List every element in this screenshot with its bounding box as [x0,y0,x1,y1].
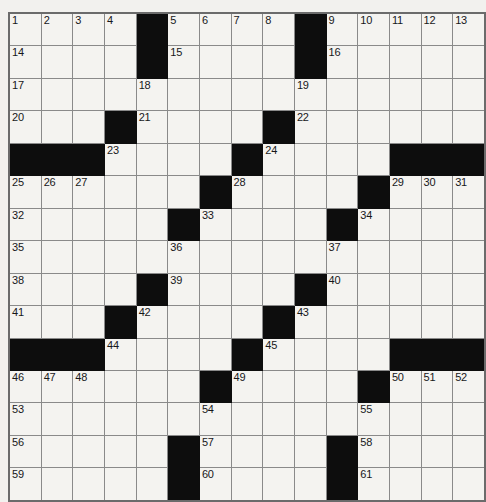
crossword-cell[interactable]: 57 [199,435,231,467]
crossword-cell[interactable] [263,370,295,402]
crossword-cell[interactable]: 28 [231,176,263,208]
crossword-cell[interactable] [231,111,263,143]
crossword-cell[interactable]: 40 [326,273,358,305]
crossword-cell[interactable] [389,468,421,501]
crossword-cell[interactable] [326,403,358,435]
crossword-cell[interactable] [41,403,73,435]
crossword-cell[interactable] [421,435,453,467]
crossword-cell[interactable] [421,273,453,305]
crossword-cell[interactable] [73,435,105,467]
crossword-cell[interactable] [73,403,105,435]
crossword-cell[interactable]: 37 [326,241,358,273]
crossword-cell[interactable] [294,468,326,501]
crossword-cell[interactable] [231,241,263,273]
crossword-cell[interactable] [104,46,136,78]
crossword-cell[interactable] [231,403,263,435]
crossword-cell[interactable] [231,46,263,78]
crossword-cell[interactable] [294,176,326,208]
crossword-cell[interactable] [294,338,326,370]
crossword-cell[interactable] [136,208,168,240]
crossword-cell[interactable] [73,241,105,273]
crossword-cell[interactable] [168,370,200,402]
crossword-cell[interactable] [41,78,73,110]
crossword-cell[interactable] [199,111,231,143]
crossword-cell[interactable]: 58 [358,435,390,467]
crossword-cell[interactable] [136,241,168,273]
crossword-cell[interactable] [326,370,358,402]
crossword-cell[interactable] [168,176,200,208]
crossword-cell[interactable] [231,208,263,240]
crossword-cell[interactable]: 48 [73,370,105,402]
crossword-cell[interactable] [104,78,136,110]
crossword-cell[interactable]: 61 [358,468,390,501]
crossword-cell[interactable]: 14 [9,46,41,78]
crossword-cell[interactable]: 38 [9,273,41,305]
crossword-cell[interactable] [453,241,485,273]
crossword-cell[interactable] [73,273,105,305]
crossword-cell[interactable] [453,208,485,240]
crossword-cell[interactable]: 35 [9,241,41,273]
crossword-cell[interactable]: 39 [168,273,200,305]
crossword-cell[interactable]: 53 [9,403,41,435]
crossword-cell[interactable] [231,273,263,305]
crossword-cell[interactable] [199,338,231,370]
crossword-cell[interactable] [73,78,105,110]
crossword-cell[interactable] [136,143,168,175]
crossword-cell[interactable] [263,403,295,435]
crossword-cell[interactable] [358,241,390,273]
crossword-cell[interactable] [41,306,73,338]
crossword-cell[interactable]: 11 [389,13,421,46]
crossword-cell[interactable] [104,468,136,501]
crossword-cell[interactable]: 55 [358,403,390,435]
crossword-cell[interactable]: 26 [41,176,73,208]
crossword-cell[interactable] [421,46,453,78]
crossword-cell[interactable] [421,111,453,143]
crossword-cell[interactable] [73,306,105,338]
crossword-cell[interactable] [263,208,295,240]
crossword-cell[interactable]: 15 [168,46,200,78]
crossword-cell[interactable]: 7 [231,13,263,46]
crossword-cell[interactable]: 51 [421,370,453,402]
crossword-cell[interactable] [231,468,263,501]
crossword-cell[interactable]: 9 [326,13,358,46]
crossword-cell[interactable] [389,111,421,143]
crossword-cell[interactable]: 60 [199,468,231,501]
crossword-cell[interactable] [263,435,295,467]
crossword-cell[interactable]: 56 [9,435,41,467]
crossword-cell[interactable]: 24 [263,143,295,175]
crossword-cell[interactable]: 31 [453,176,485,208]
crossword-cell[interactable] [41,241,73,273]
crossword-cell[interactable]: 3 [73,13,105,46]
crossword-cell[interactable] [73,468,105,501]
crossword-cell[interactable]: 19 [294,78,326,110]
crossword-cell[interactable]: 41 [9,306,41,338]
crossword-cell[interactable]: 54 [199,403,231,435]
crossword-cell[interactable]: 45 [263,338,295,370]
crossword-cell[interactable] [168,338,200,370]
crossword-cell[interactable] [453,468,485,501]
crossword-cell[interactable] [263,78,295,110]
crossword-cell[interactable] [421,403,453,435]
crossword-cell[interactable] [263,176,295,208]
crossword-cell[interactable]: 27 [73,176,105,208]
crossword-cell[interactable] [263,273,295,305]
crossword-cell[interactable] [136,338,168,370]
crossword-cell[interactable] [389,241,421,273]
crossword-cell[interactable]: 1 [9,13,41,46]
crossword-cell[interactable]: 32 [9,208,41,240]
crossword-cell[interactable] [389,78,421,110]
crossword-cell[interactable] [199,143,231,175]
crossword-cell[interactable]: 17 [9,78,41,110]
crossword-cell[interactable] [168,111,200,143]
crossword-cell[interactable] [136,403,168,435]
crossword-cell[interactable] [326,176,358,208]
crossword-cell[interactable] [358,143,390,175]
crossword-cell[interactable] [294,208,326,240]
crossword-cell[interactable]: 34 [358,208,390,240]
crossword-cell[interactable]: 47 [41,370,73,402]
crossword-cell[interactable] [136,468,168,501]
crossword-cell[interactable]: 13 [453,13,485,46]
crossword-cell[interactable]: 16 [326,46,358,78]
crossword-cell[interactable] [421,241,453,273]
crossword-cell[interactable] [199,273,231,305]
